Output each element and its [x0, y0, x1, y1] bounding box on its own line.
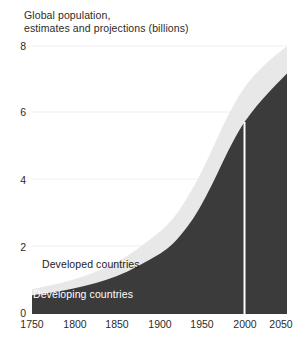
plot-area	[32, 38, 287, 314]
x-axis-tick-1750: 1750	[10, 318, 54, 330]
x-axis-tick-1950: 1950	[180, 318, 224, 330]
series-label-developing: Developing countries	[33, 288, 133, 300]
population-chart: Global population, estimates and project…	[0, 0, 301, 337]
chart-title: Global population, estimates and project…	[24, 9, 189, 35]
x-axis-tick-1800: 1800	[53, 318, 97, 330]
y-axis-tick-8: 8	[4, 41, 26, 52]
plot-svg	[32, 38, 287, 314]
y-axis-tick-2: 2	[4, 242, 26, 253]
x-axis-tick-1900: 1900	[138, 318, 182, 330]
x-axis-tick-2050: 2050	[259, 318, 301, 330]
y-axis-tick-6: 6	[4, 107, 26, 118]
series-label-developed: Developed countries	[42, 258, 140, 270]
y-axis-tick-4: 4	[4, 175, 26, 186]
x-axis-tick-1850: 1850	[95, 318, 139, 330]
